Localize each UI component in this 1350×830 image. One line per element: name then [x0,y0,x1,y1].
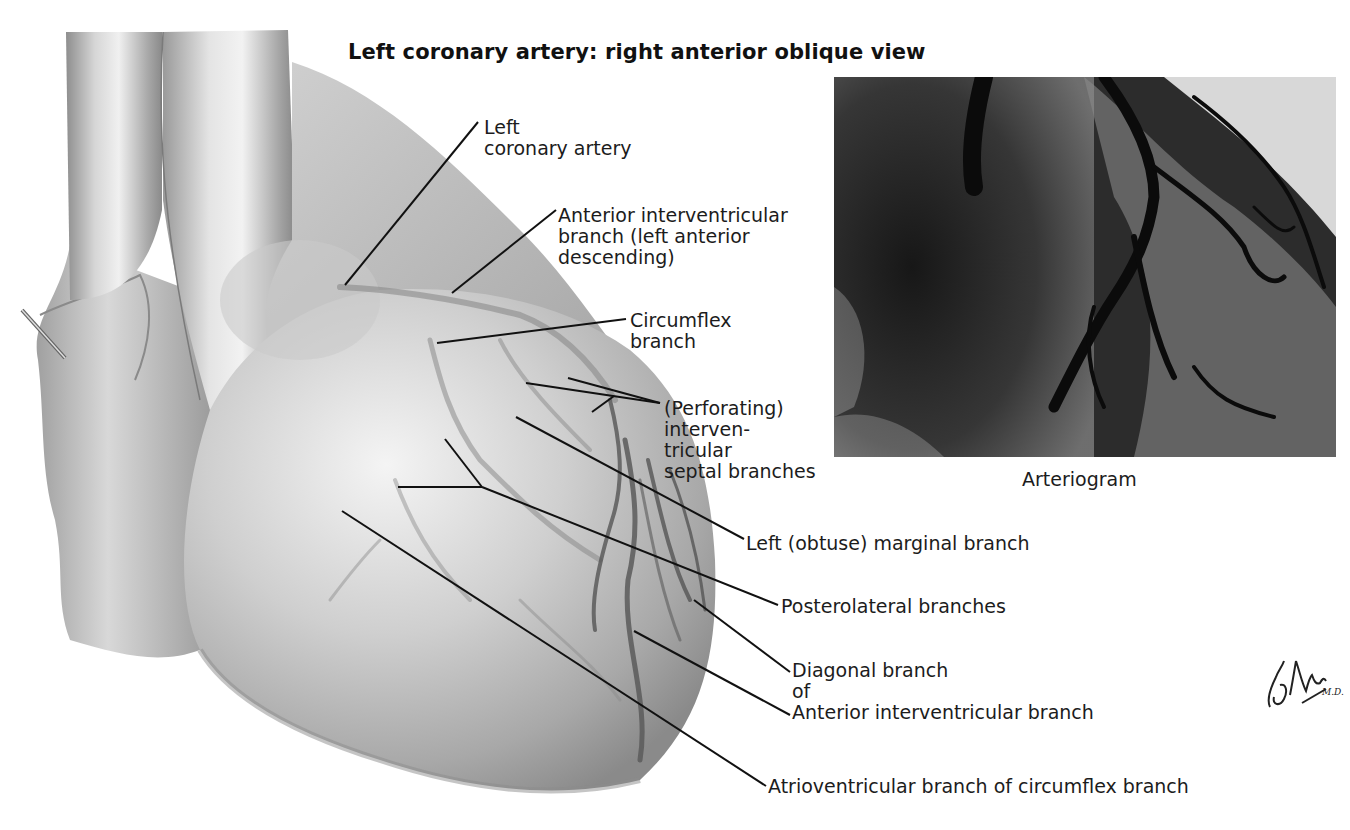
label-atrioventricular-branch: Atrioventricular branch of circumflex br… [768,776,1189,797]
arteriogram-caption: Arteriogram [1022,468,1137,490]
label-line: Atrioventricular branch of circumflex br… [768,776,1189,797]
label-posterolateral-branches: Posterolateral branches [781,596,1006,617]
anatomy-figure: Left coronary artery: right anterior obl… [0,0,1350,830]
svg-text:M.D.: M.D. [1321,687,1344,697]
label-line: branch [630,331,732,352]
label-diagonal-branch: Diagonal branch of Anterior interventric… [792,660,1094,723]
label-anterior-interventricular-branch: Anterior interventricular branch (left a… [558,205,788,268]
label-septal-branches: (Perforating) interven- tricular septal … [664,398,816,482]
label-line: Left [484,117,632,138]
label-line: (Perforating) [664,398,816,419]
label-left-coronary-artery: Left coronary artery [484,117,632,159]
label-line: Anterior interventricular branch [792,702,1094,723]
figure-title: Left coronary artery: right anterior obl… [348,40,926,64]
label-line: Circumflex [630,310,732,331]
label-line: tricular [664,440,816,461]
label-line: Anterior interventricular [558,205,788,226]
label-left-marginal-branch: Left (obtuse) marginal branch [746,533,1029,554]
arteriogram-image [834,77,1336,457]
label-line: branch (left anterior [558,226,788,247]
label-line: descending) [558,247,788,268]
label-line: Left (obtuse) marginal branch [746,533,1029,554]
label-line: of [792,681,1094,702]
label-line: coronary artery [484,138,632,159]
label-line: interven- [664,419,816,440]
netter-signature-icon: M.D. [1262,655,1348,711]
label-line: Posterolateral branches [781,596,1006,617]
label-line: Diagonal branch [792,660,1094,681]
label-line: septal branches [664,461,816,482]
label-circumflex-branch: Circumflex branch [630,310,732,352]
